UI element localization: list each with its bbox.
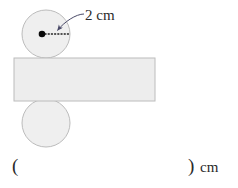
answer-row: ( ) cm	[0, 152, 238, 188]
center-point-dot	[39, 31, 46, 38]
answer-unit-label: cm	[200, 154, 218, 180]
answer-open-paren: (	[12, 152, 18, 180]
answer-close-paren: )	[188, 152, 194, 180]
answer-blank-input[interactable]	[24, 156, 186, 180]
belt-rectangle	[14, 58, 155, 101]
radius-dimension-label: 2 cm	[85, 7, 115, 23]
bottom-roller-circle	[22, 99, 70, 147]
